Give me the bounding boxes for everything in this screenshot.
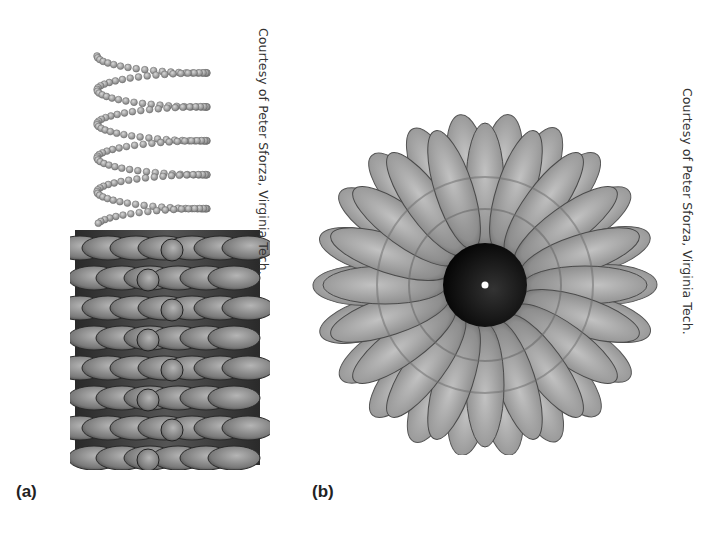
panel-b: [310, 95, 660, 455]
credit-line-b: Courtesy of Peter Sforza, Virginia Tech.: [680, 88, 695, 335]
panel-label-a: (a): [16, 482, 37, 502]
rosette-illustration: [310, 95, 660, 455]
credit-line-a: Courtesy of Peter Sforza, Virginia Tech.: [256, 28, 271, 275]
panel-a: [70, 40, 270, 470]
panel-label-b: (b): [312, 482, 334, 502]
helix-column-illustration: [70, 40, 270, 470]
